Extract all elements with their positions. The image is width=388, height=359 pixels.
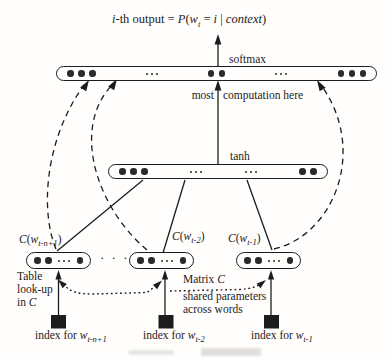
formula-context: context: [226, 12, 262, 26]
embedding-vector-box-2: [129, 252, 194, 269]
w-subscript: t-n+1: [38, 238, 57, 248]
table-lookup-c: C: [29, 296, 37, 308]
index2-square: [159, 315, 174, 329]
paren: ): [257, 232, 261, 244]
dotted-arrowhead-1: [58, 280, 67, 289]
softmax-label: softmax: [229, 53, 266, 66]
embedding-vector-box-1: [26, 252, 91, 269]
index-text: index for: [251, 329, 296, 341]
matrix-word: Matrix: [183, 273, 217, 285]
formula-paren-close: ): [262, 12, 266, 26]
shared-parameters-label: shared parameters across words: [183, 290, 266, 315]
table-lookup-line1: Table: [17, 270, 42, 282]
table-lookup-line3: in: [17, 296, 29, 308]
index1-square: [51, 315, 66, 329]
table-lookup-line2: look-up: [17, 283, 53, 295]
neural-lm-figure: i-th output = P(wt = i | context) softma…: [0, 0, 388, 359]
w-subscript: t-n+1: [87, 334, 106, 344]
paren: ): [201, 230, 205, 242]
embedding-label-3: C(wt-1): [228, 232, 260, 245]
w-subscript: t-1: [303, 334, 312, 344]
dotted-arrowhead-2: [153, 281, 162, 290]
shared-line2: across words: [183, 303, 243, 315]
index-label-1: index for wt-n+1: [35, 329, 107, 342]
index2-arrowhead: [162, 270, 168, 280]
matrix-c-sym: C: [217, 273, 225, 285]
index-label-3: index for wt-1: [251, 329, 313, 342]
arc-left-arrowhead: [80, 80, 89, 91]
table-lookup-label: Table look-up in C: [17, 270, 53, 309]
c-sym: C: [172, 230, 180, 242]
index-label-2: index for wt-2: [143, 329, 205, 342]
index3-arrowhead: [268, 270, 274, 280]
formula-text: -th output =: [115, 12, 177, 26]
shared-line1: shared parameters: [183, 290, 266, 302]
index3-square: [264, 315, 279, 329]
most-computation-label-right: computation here: [223, 89, 303, 102]
embed1-to-tanh-line: [57, 180, 143, 251]
formula-w: w: [190, 12, 198, 26]
w-subscript: t-2: [191, 235, 200, 245]
embedding-vector-box-3: [236, 252, 301, 269]
dotted-arrowhead-3: [257, 280, 266, 288]
caption-bleedthrough: [201, 348, 261, 356]
w-subscript: t-2: [195, 334, 204, 344]
w-subscript: t-1: [247, 237, 256, 247]
embedding-label-1: C(wt-n+1): [19, 233, 61, 246]
embedding-label-2: C(wt-2): [172, 230, 204, 243]
tanh-arrowhead: [215, 80, 222, 91]
tanh-layer-box: [108, 164, 328, 179]
formula-eq: =: [200, 12, 213, 26]
index-text: index for: [143, 329, 188, 341]
direct-connection-arc-left: [47, 85, 84, 249]
c-sym: C: [228, 232, 236, 244]
output-arrowhead: [215, 34, 222, 45]
index-text: index for: [35, 329, 80, 341]
tanh-label: tanh: [230, 150, 250, 163]
most-computation-label-left: most: [180, 89, 214, 102]
paren: ): [58, 233, 62, 245]
matrix-c-label: Matrix C: [183, 273, 225, 286]
index1-arrowhead: [55, 270, 61, 280]
between-boxes-ellipsis: · · ·: [100, 251, 130, 264]
formula-bar: |: [217, 12, 226, 26]
softmax-layer-box: [56, 66, 377, 81]
caption-bleedthrough: [128, 350, 174, 355]
c-sym: C: [19, 233, 27, 245]
output-formula: i-th output = P(wt = i | context): [112, 13, 266, 26]
